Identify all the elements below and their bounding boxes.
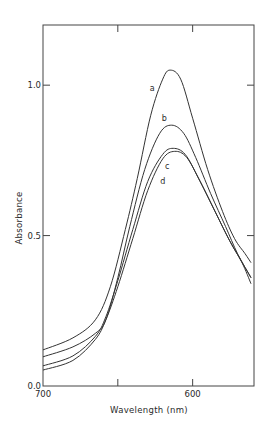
curve-label-c: c bbox=[165, 162, 169, 171]
curve-label-d: d bbox=[160, 177, 165, 186]
y-tick-label: 1.0 bbox=[27, 80, 41, 90]
absorbance-spectrum-chart: 7006000.00.51.0 abcd Wavelength (nm) Abs… bbox=[0, 0, 266, 434]
curve-label-b: b bbox=[162, 114, 167, 123]
x-tick-label: 600 bbox=[185, 389, 201, 399]
x-axis-title: Wavelength (nm) bbox=[110, 405, 188, 415]
tick-labels: 7006000.00.51.0 bbox=[27, 80, 200, 399]
curve-label-a: a bbox=[150, 84, 155, 93]
y-tick-label: 0.5 bbox=[27, 231, 41, 241]
curve-c bbox=[43, 148, 251, 366]
plot-frame bbox=[43, 25, 254, 386]
y-axis-title: Absorbance bbox=[14, 191, 24, 244]
curve-b bbox=[43, 125, 251, 357]
y-tick-label: 0.0 bbox=[27, 381, 41, 391]
axis-ticks bbox=[43, 25, 254, 386]
spectrum-curves bbox=[43, 70, 251, 370]
curve-a bbox=[43, 70, 251, 350]
